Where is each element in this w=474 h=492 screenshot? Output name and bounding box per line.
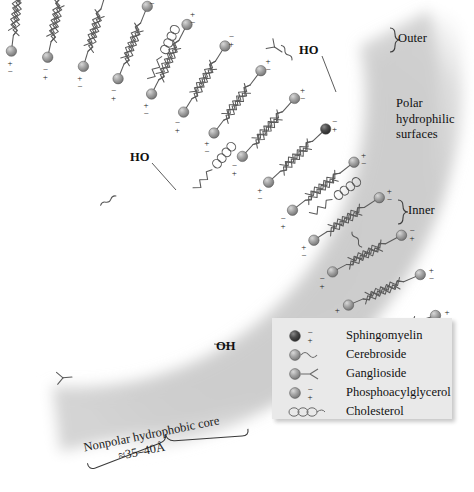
- legend-label: Cholesterol: [346, 404, 404, 419]
- svg-text:−: −: [190, 17, 195, 27]
- ganglioside-head-branch: [57, 372, 73, 384]
- legend-label: Phosphoacylglycerol: [346, 385, 451, 400]
- polar-line-3: surfaces: [396, 127, 455, 143]
- phosphoacylglycerol-head-icon: −+: [286, 383, 342, 403]
- legend-row: Ganglioside: [272, 364, 452, 384]
- lipid-inner-leaflet: +−: [77, 10, 104, 91]
- charge-symbol: +−: [301, 242, 306, 260]
- charge-symbol: +−: [429, 265, 434, 283]
- cerebroside-head-squiggle: [101, 196, 116, 205]
- svg-text:−: −: [301, 250, 306, 260]
- polar-line-2: hydrophilic: [396, 112, 455, 128]
- svg-text:−: −: [77, 81, 82, 91]
- charge-symbol: +−: [204, 138, 209, 156]
- charge-symbol: +−: [190, 9, 195, 27]
- svg-text:+: +: [43, 72, 48, 82]
- svg-text:−: −: [204, 146, 209, 156]
- leader-ho-mid: [152, 163, 176, 190]
- svg-text:+: +: [307, 392, 312, 402]
- svg-text:+: +: [307, 335, 312, 345]
- charge-symbol: +−: [361, 150, 366, 168]
- lipid-outer-leaflet: −+: [84, 0, 112, 53]
- svg-text:+: +: [281, 221, 286, 231]
- polar-line-1: Polar: [396, 96, 455, 112]
- sphingomyelin-head-icon: −+: [286, 326, 342, 346]
- label-hydroxyl-mid: HO: [130, 150, 150, 165]
- charge-symbol: −+: [232, 160, 237, 178]
- lipid-inner-leaflet: +−: [257, 139, 311, 204]
- svg-text:−: −: [361, 158, 366, 168]
- charge-symbol: +−: [257, 185, 262, 203]
- svg-text:−: −: [300, 93, 305, 103]
- label-hydroxyl-top: HO: [299, 43, 319, 58]
- charge-symbol: +−: [387, 186, 392, 204]
- svg-text:+: +: [175, 125, 180, 135]
- charge-symbol: +−: [300, 85, 305, 103]
- svg-text:−: −: [7, 66, 12, 76]
- lipid-inner-leaflet: −+: [281, 170, 339, 230]
- svg-text:−: −: [387, 194, 392, 204]
- svg-text:+: +: [232, 168, 237, 178]
- charge-symbol: +−: [77, 73, 82, 91]
- lipid-inner-leaflet: +−: [6, 0, 23, 76]
- cerebroside-head-squiggle: [281, 45, 292, 60]
- figure-canvas: −+−++−+−+−−+−++−+−−++−+−−+−++−+−+−−+−++−…: [0, 0, 474, 492]
- charge-symbol: −+: [281, 213, 286, 231]
- svg-text:+: +: [332, 124, 337, 134]
- charge-symbol: +−: [144, 100, 149, 118]
- charge-symbol: −+: [332, 116, 337, 134]
- svg-text:+: +: [410, 233, 415, 243]
- legend-label: Sphingomyelin: [346, 328, 422, 343]
- charge-symbol: −+: [175, 117, 180, 135]
- charge-symbol: −+: [410, 225, 415, 243]
- label-inner: Inner: [408, 203, 435, 218]
- leader-ho-top: [322, 56, 336, 92]
- svg-text:−: −: [257, 193, 262, 203]
- cerebroside-head-icon: [286, 345, 342, 365]
- svg-text:+: +: [229, 39, 234, 49]
- svg-text:+: +: [319, 281, 324, 291]
- svg-text:−: −: [266, 64, 271, 74]
- charge-symbol: +−: [149, 0, 154, 8]
- svg-text:−: −: [149, 0, 154, 8]
- label-polar-hydrophilic-surfaces: Polar hydrophilic surfaces: [396, 96, 455, 143]
- legend-row: −+Phosphoacylglycerol: [272, 383, 452, 403]
- legend-row: Cholesterol: [272, 402, 452, 422]
- svg-text:+: +: [111, 93, 116, 103]
- legend-label: Cerebroside: [346, 347, 406, 362]
- svg-text:−: −: [144, 108, 149, 118]
- legend-row: −+Sphingomyelin: [272, 326, 452, 346]
- cholesterol-molecule: [193, 141, 237, 188]
- svg-text:−: −: [429, 273, 434, 283]
- legend-label: Ganglioside: [346, 366, 406, 381]
- label-hydroxyl-right: OH: [216, 339, 236, 354]
- ganglioside-head-icon: [286, 364, 342, 384]
- charge-symbol: +−: [7, 58, 12, 76]
- charge-symbol: +−: [266, 56, 271, 74]
- lipid-inner-leaflet: −+: [43, 0, 65, 82]
- legend-box: −+SphingomyelinCerebrosideGanglioside−+P…: [272, 318, 452, 419]
- label-nonpolar-core-wrap: Nonpolar hydrophobic core ≈35–40Å: [52, 441, 262, 487]
- charge-symbol: −+: [229, 31, 234, 49]
- legend-row: Cerebroside: [272, 345, 452, 365]
- ganglioside-head-branch: [266, 39, 282, 52]
- label-outer: Outer: [398, 31, 427, 46]
- charge-symbol: −+: [319, 273, 324, 291]
- cholesterol-ring-icon: [286, 402, 342, 422]
- charge-symbol: −+: [43, 64, 48, 82]
- charge-symbol: −+: [111, 85, 116, 103]
